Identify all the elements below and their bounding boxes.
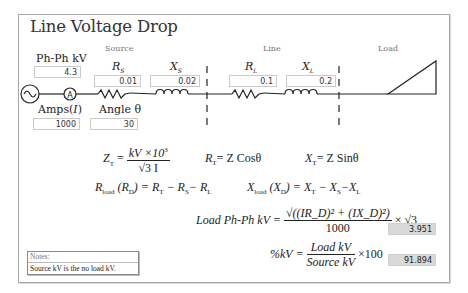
sine-wave-icon — [24, 91, 36, 97]
rload-mid: (R — [117, 180, 128, 194]
notes-body: Source kV is the no load kV. — [28, 263, 138, 274]
xload-sub-t: T — [311, 188, 315, 196]
zt-num-text: kV ×10 — [129, 146, 165, 160]
formula-xload: Xload (XD) = XT − XS−XL — [247, 180, 361, 196]
zt-num-sup: 3 — [164, 146, 168, 154]
xload-tail: − X — [319, 180, 337, 194]
loadkv-lhs: Load Ph-Ph kV = — [196, 213, 281, 227]
loadkv-denominator: 1000 — [284, 221, 392, 235]
formula-xt: XT= Z Sinθ — [305, 151, 358, 167]
rt-rhs: = Z Cosθ — [217, 151, 262, 165]
xload-sub-l: L — [356, 188, 360, 196]
rload-sub-l: L — [207, 188, 211, 196]
xload-sub: load — [254, 188, 266, 196]
load-ph-ph-kv-output: 3.951 — [388, 223, 436, 235]
zt-fraction: kV ×103 √3 I — [127, 144, 170, 175]
xt-rhs: = Z Sinθ — [317, 151, 359, 165]
pct-lhs: %kV = — [270, 247, 304, 261]
circuit-diagram: A — [0, 0, 468, 293]
notes-header: Notes: — [28, 252, 138, 263]
zt-lhs: Z — [103, 151, 110, 165]
pct-fraction: Load kV Source kV — [307, 241, 356, 269]
ammeter-symbol: A — [67, 91, 73, 100]
xload-mid: (X — [269, 180, 280, 194]
source-inductor-icon — [156, 90, 188, 95]
notes-box: Notes: Source kV is the no load kV. — [27, 251, 139, 275]
pct-kv-output: 91.894 — [388, 254, 436, 266]
wire-segment — [130, 93, 156, 94]
formula-rload: Rload (RD) = RT − RS− RL — [95, 180, 212, 196]
formula-rt: RT= Z Cosθ — [205, 151, 261, 167]
wire-segment — [264, 93, 285, 94]
pct-numerator: Load kV — [307, 241, 356, 255]
line-resistor-icon — [232, 90, 264, 98]
zt-sub: T — [110, 160, 114, 168]
zt-numerator: kV ×103 — [127, 144, 170, 161]
loadkv-fraction: √((IR_D)² + (IX_D)²) 1000 — [284, 207, 392, 235]
formula-load-kv: Load Ph-Ph kV = √((IR_D)² + (IX_D)²) 100… — [196, 207, 417, 235]
line-inductor-icon — [285, 90, 317, 95]
pct-tail: ×100 — [358, 247, 383, 261]
xload-tail2: −X — [341, 180, 356, 194]
zt-denominator: √3 I — [127, 161, 170, 175]
rload-sub-t: T — [159, 188, 163, 196]
load-triangle-icon — [388, 61, 436, 94]
formula-pct-kv: %kV = Load kV Source kV ×100 — [270, 241, 383, 269]
loadkv-numerator: √((IR_D)² + (IX_D)²) — [284, 207, 392, 221]
rload-sub: load — [102, 188, 114, 196]
pct-denominator: Source kV — [307, 255, 356, 269]
rload-tail-end: − R — [189, 180, 207, 194]
rload-rhs: ) = R — [134, 180, 159, 194]
rload-tail: − R — [167, 180, 185, 194]
formula-zt: ZT = kV ×103 √3 I — [103, 144, 170, 175]
xload-rhs: ) = X — [286, 180, 311, 194]
source-resistor-icon — [98, 90, 130, 98]
